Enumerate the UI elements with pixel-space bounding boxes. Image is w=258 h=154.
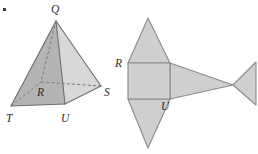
vertex-label-Q: Q: [51, 3, 60, 15]
pyramid-net: R U: [114, 18, 256, 148]
vertex-label-T: T: [6, 112, 14, 124]
vertex-label-S: S: [104, 86, 110, 98]
square-pyramid: Q R S T U: [6, 3, 110, 124]
net-triangle-top: [128, 18, 170, 63]
geometry-figure: Q R S T U R U: [0, 0, 258, 154]
net-vertex-label-R: R: [114, 57, 122, 69]
vertex-label-R: R: [36, 86, 44, 98]
net-square-base: [128, 63, 170, 99]
figure-container: Q R S T U R U: [0, 0, 258, 154]
vertex-label-U: U: [61, 112, 70, 124]
net-triangle-right-inner: [170, 63, 233, 99]
corner-dot: [3, 8, 6, 11]
net-triangle-right-outer: [233, 62, 256, 105]
net-vertex-label-U: U: [161, 100, 170, 112]
